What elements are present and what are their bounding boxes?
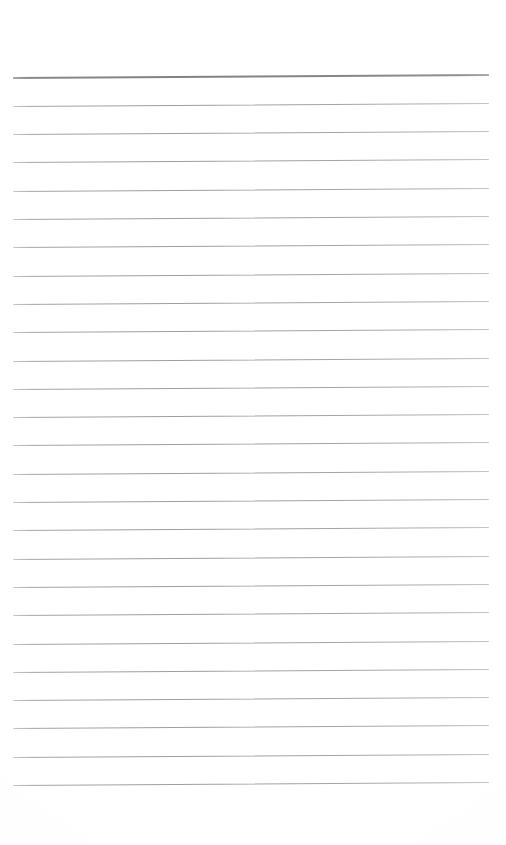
ruled-line (13, 556, 489, 560)
rule-ink (13, 641, 489, 645)
ruled-line (13, 386, 489, 390)
ruled-line (13, 612, 489, 616)
rule-ink (13, 697, 489, 701)
rule-ink (13, 386, 489, 390)
ruled-line (13, 641, 489, 645)
ruled-line (13, 329, 489, 333)
rule-ink (13, 329, 489, 333)
rule-ink (13, 358, 489, 362)
ruled-line (13, 159, 489, 163)
rule-ink (13, 612, 489, 616)
rule-ink (13, 556, 489, 560)
rule-ink (13, 669, 489, 673)
ruled-line (13, 725, 489, 729)
ruled-line (13, 697, 489, 701)
ruled-line (13, 471, 489, 475)
ruled-line (13, 358, 489, 362)
rule-ink (13, 131, 489, 135)
ruled-line (13, 103, 489, 107)
ruled-line (13, 244, 489, 248)
rule-ink (13, 782, 489, 786)
ruled-lines-group (0, 0, 506, 845)
rule-ink (13, 244, 489, 248)
rule-ink (13, 584, 489, 588)
ruled-line (13, 499, 489, 503)
rule-ink (13, 216, 489, 220)
ruled-line (13, 414, 489, 418)
ruled-line (13, 301, 489, 305)
ruled-line (13, 131, 489, 135)
ruled-line (13, 669, 489, 673)
note-paper-page (0, 0, 506, 845)
ruled-line (13, 442, 489, 446)
ruled-line (13, 754, 489, 758)
rule-ink (13, 159, 489, 163)
ruled-line (13, 782, 489, 786)
rule-ink (13, 725, 489, 729)
ruled-line (13, 216, 489, 220)
ruled-line (13, 273, 489, 277)
rule-ink (13, 499, 489, 503)
rule-ink (13, 188, 489, 192)
rule-ink (13, 754, 489, 758)
header-rule-line (13, 74, 489, 79)
rule-ink (13, 74, 489, 79)
ruled-line (13, 527, 489, 531)
ruled-line (13, 584, 489, 588)
rule-ink (13, 103, 489, 107)
rule-ink (13, 414, 489, 418)
rule-ink (13, 442, 489, 446)
rule-ink (13, 301, 489, 305)
rule-ink (13, 273, 489, 277)
rule-ink (13, 527, 489, 531)
rule-ink (13, 471, 489, 475)
ruled-line (13, 188, 489, 192)
